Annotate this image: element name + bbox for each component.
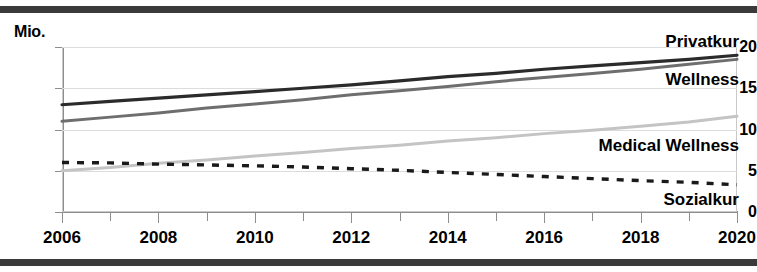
x-axis-tick-label: 2006 xyxy=(43,228,81,248)
x-axis-tick-major xyxy=(448,213,449,223)
x-axis-tick-major xyxy=(62,213,63,223)
x-axis-tick-major xyxy=(737,213,738,223)
x-axis-tick-label: 2008 xyxy=(140,228,178,248)
series-label-sozialkur: Sozialkur xyxy=(663,190,739,210)
x-axis-tick-major xyxy=(544,213,545,223)
chart-figure: Mio. 05101520 20062008201020122014201620… xyxy=(0,0,757,272)
series-line-wellness xyxy=(62,59,737,121)
bottom-divider-rule xyxy=(0,259,757,266)
series-line-privatkur xyxy=(62,55,737,105)
x-axis-tick-label: 2020 xyxy=(718,228,756,248)
series-label-medical-wellness: Medical Wellness xyxy=(599,136,739,156)
x-axis-tick-minor xyxy=(110,213,111,221)
x-axis-tick-label: 2012 xyxy=(332,228,370,248)
x-axis-tick-label: 2010 xyxy=(236,228,274,248)
series-label-wellness: Wellness xyxy=(666,70,739,90)
x-axis-tick-minor xyxy=(689,213,690,221)
x-axis-tick-label: 2018 xyxy=(622,228,660,248)
x-axis-tick-major xyxy=(255,213,256,223)
x-axis-tick-minor xyxy=(400,213,401,221)
top-divider-rule xyxy=(0,6,757,13)
x-axis-tick-minor xyxy=(303,213,304,221)
x-axis-tick-label: 2014 xyxy=(429,228,467,248)
x-axis-tick-minor xyxy=(592,213,593,221)
x-axis-tick-minor xyxy=(207,213,208,221)
x-axis-tick-minor xyxy=(496,213,497,221)
series-line-sozialkur xyxy=(62,163,737,185)
series-lines xyxy=(62,47,737,212)
series-label-privatkur: Privatkur xyxy=(665,32,739,52)
plot-area xyxy=(62,47,737,212)
y-axis-unit-label: Mio. xyxy=(14,23,45,41)
x-axis-tick-label: 2016 xyxy=(525,228,563,248)
x-axis-tick-major xyxy=(351,213,352,223)
x-axis-tick-major xyxy=(641,213,642,223)
x-axis-tick-major xyxy=(158,213,159,223)
